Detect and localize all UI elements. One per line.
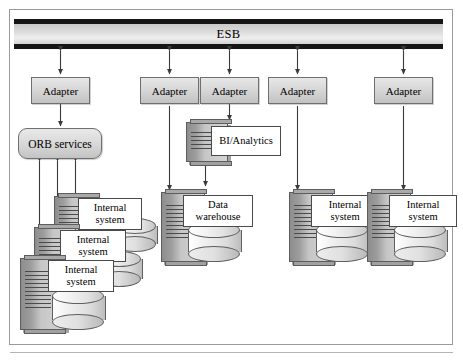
cylinder-bottom [188, 246, 240, 262]
adapter-orb[interactable]: Adapter [31, 77, 90, 104]
node-label: Internal system [60, 230, 126, 262]
node-label-line1: Data [208, 199, 228, 211]
server-cap [293, 189, 335, 194]
adapter-internal-system-5[interactable]: Adapter [374, 77, 433, 104]
node-label-line1: BI/Analytics [219, 135, 273, 147]
adapter-label: Adapter [280, 85, 315, 97]
node-label-line2: system [66, 276, 95, 288]
footer-rule [10, 352, 453, 353]
node-label-line1: Internal [329, 199, 362, 211]
node-label: Internal system [48, 260, 114, 292]
server-cap [38, 224, 80, 229]
node-label-line1: Internal [407, 199, 440, 211]
node-label: Data warehouse [183, 195, 253, 227]
node-label: BI/Analytics [211, 126, 281, 156]
node-label-line1: Internal [94, 202, 127, 214]
cylinder-bottom [52, 314, 104, 330]
database-cylinder-icon [188, 222, 240, 262]
server-cap [165, 189, 207, 194]
diagram-canvas: ESB [0, 0, 463, 361]
cylinder-bottom [394, 246, 446, 262]
node-label-line1: Internal [65, 264, 98, 276]
node-label: Internal system [389, 195, 457, 227]
database-cylinder-icon [316, 222, 368, 262]
node-label-line2: system [408, 211, 437, 223]
adapter-label: Adapter [152, 85, 187, 97]
node-label-line1: Internal [77, 234, 110, 246]
node-label: Internal system [78, 198, 142, 230]
node-label-line2: warehouse [196, 211, 241, 223]
adapter-internal-system-4[interactable]: Adapter [268, 77, 327, 104]
adapter-label: Adapter [386, 85, 421, 97]
orb-services-label: ORB services [28, 138, 92, 150]
adapter-data-warehouse[interactable]: Adapter [140, 77, 199, 104]
server-base [190, 161, 232, 166]
cylinder-bottom [316, 246, 368, 262]
server-cap [371, 189, 413, 194]
node-label-line2: system [330, 211, 359, 223]
adapter-label: Adapter [43, 85, 78, 97]
orb-services-box[interactable]: ORB services [18, 128, 102, 159]
adapter-label: Adapter [212, 85, 247, 97]
database-cylinder-icon [394, 222, 446, 262]
node-label-line2: system [78, 246, 107, 258]
adapter-bi-analytics[interactable]: Adapter [200, 77, 259, 104]
database-cylinder-icon [52, 288, 104, 330]
node-label-line2: system [95, 214, 124, 226]
server-cap [190, 119, 232, 124]
